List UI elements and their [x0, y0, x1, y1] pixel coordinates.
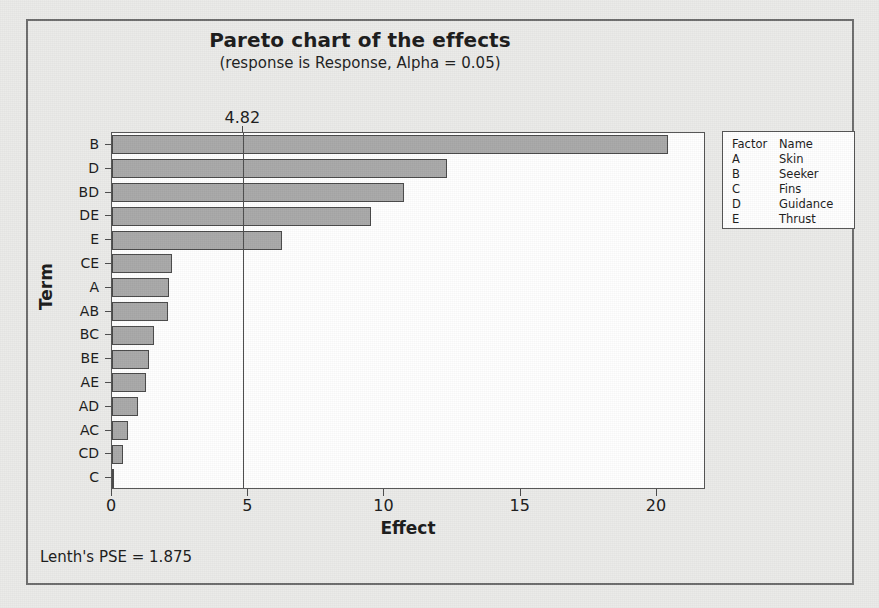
legend-factor-e: E: [732, 212, 779, 227]
legend-name-c: Fins: [779, 182, 851, 197]
y-tick-label-de: DE: [79, 207, 99, 223]
legend-name-d: Guidance: [779, 197, 851, 212]
chart-title: Pareto chart of the effects: [0, 28, 720, 52]
y-tick-label-a: A: [89, 279, 99, 295]
y-tick-label-ac: AC: [80, 422, 99, 438]
bar-de: [112, 207, 371, 226]
reference-line-label: 4.82: [225, 108, 261, 127]
legend-row: BSeeker: [732, 167, 854, 182]
bar-b: [112, 135, 668, 154]
legend-header-name: Name: [779, 137, 851, 152]
y-tick-label-e: E: [90, 231, 99, 247]
y-tick-label-c: C: [89, 469, 99, 485]
y-tick-label-ad: AD: [79, 398, 99, 414]
bar-ac: [112, 421, 128, 440]
bar-c: [112, 469, 114, 488]
pareto-chart-page: Pareto chart of the effects (response is…: [0, 0, 879, 608]
y-tick-label-be: BE: [81, 350, 99, 366]
x-tick-mark: [520, 489, 521, 496]
plot-area: [111, 132, 705, 489]
legend-row: CFins: [732, 182, 854, 197]
legend-row: DGuidance: [732, 197, 854, 212]
y-axis-title: Term: [36, 263, 56, 310]
y-tick-label-ae: AE: [81, 374, 99, 390]
lenths-pse-note: Lenth's PSE = 1.875: [40, 548, 192, 566]
legend-row: EThrust: [732, 212, 854, 227]
y-tick-label-bd: BD: [79, 184, 99, 200]
bar-be: [112, 350, 149, 369]
bar-d: [112, 159, 447, 178]
x-tick-mark: [247, 489, 248, 496]
x-tick-label-5: 5: [242, 496, 252, 515]
legend-factor-d: D: [732, 197, 779, 212]
factor-legend: Factor Name ASkinBSeekerCFinsDGuidanceET…: [722, 131, 855, 229]
legend-name-a: Skin: [779, 152, 851, 167]
x-axis-title: Effect: [380, 518, 435, 538]
bar-a: [112, 278, 169, 297]
bar-cd: [112, 445, 123, 464]
bar-ce: [112, 254, 172, 273]
bar-ae: [112, 373, 146, 392]
legend-name-b: Seeker: [779, 167, 851, 182]
bar-ab: [112, 302, 168, 321]
x-tick-mark: [111, 489, 112, 496]
legend-factor-c: C: [732, 182, 779, 197]
legend-header-factor: Factor: [732, 137, 779, 152]
x-tick-mark: [656, 489, 657, 496]
x-tick-label-15: 15: [510, 496, 530, 515]
legend-row: ASkin: [732, 152, 854, 167]
y-tick-label-ce: CE: [80, 255, 99, 271]
legend-name-e: Thrust: [779, 212, 851, 227]
x-tick-mark: [383, 489, 384, 496]
bars-layer: [112, 133, 704, 488]
bar-ad: [112, 397, 138, 416]
y-tick-label-ab: AB: [80, 303, 99, 319]
legend-header-row: Factor Name: [732, 137, 854, 152]
y-tick-label-b: B: [89, 136, 99, 152]
y-tick-label-d: D: [88, 160, 99, 176]
y-tick-label-bc: BC: [80, 326, 99, 342]
x-tick-label-0: 0: [106, 496, 116, 515]
x-tick-label-10: 10: [373, 496, 393, 515]
chart-subtitle: (response is Response, Alpha = 0.05): [0, 54, 720, 72]
bar-bd: [112, 183, 404, 202]
bar-bc: [112, 326, 154, 345]
y-tick-label-cd: CD: [78, 445, 99, 461]
legend-rows: ASkinBSeekerCFinsDGuidanceEThrust: [732, 152, 854, 227]
x-tick-label-20: 20: [646, 496, 666, 515]
reference-line: [243, 133, 244, 488]
legend-factor-b: B: [732, 167, 779, 182]
legend-factor-a: A: [732, 152, 779, 167]
bar-e: [112, 231, 282, 250]
